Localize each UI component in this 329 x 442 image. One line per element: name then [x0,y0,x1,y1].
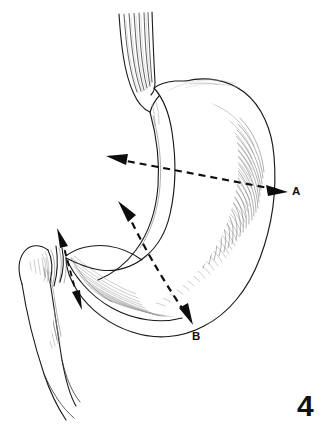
duodenum-edge-shading [44,268,61,340]
arrowhead-b-top [118,201,136,222]
figure-number: 4 [297,391,314,421]
label-a: A [292,186,301,198]
stomach-illustration [0,0,329,442]
label-b: B [192,331,201,343]
esophagus-group [119,12,155,112]
arrowhead-a-left [106,154,128,165]
figure-canvas: A B 4 [0,0,329,442]
arrowhead-pylorus-top [57,228,68,248]
arrowhead-a-right [266,185,288,196]
